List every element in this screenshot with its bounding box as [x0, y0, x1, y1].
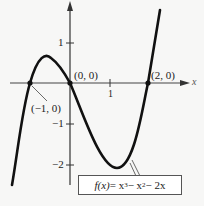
- x-axis-arrow-icon: [180, 80, 190, 86]
- point-neg1-0: [27, 80, 32, 85]
- y-tick-label-neg1: −1: [52, 118, 64, 129]
- x-tick-label-1: 1: [108, 89, 113, 99]
- point-label-two: (2, 0): [151, 70, 175, 81]
- function-curve: [12, 10, 160, 185]
- equation-end: − 2x: [146, 179, 166, 191]
- leader-line-neg1: [32, 86, 47, 101]
- point-label-origin: (0, 0): [74, 70, 98, 81]
- point-2-0: [145, 80, 150, 85]
- y-tick-label-1: 1: [58, 37, 64, 48]
- equation-f: f(x): [94, 179, 109, 191]
- x-axis-label: x: [192, 77, 196, 87]
- plot-area: 1 −1 −2 1 x (0, 0) (2, 0) (−1, 0) f(x) =…: [0, 0, 204, 206]
- equation-label-box: f(x) = x3 − x2 − 2x: [78, 175, 182, 195]
- y-axis-arrow-icon: [67, 1, 73, 11]
- equation-leader-line: [130, 160, 140, 176]
- y-tick-label-neg2: −2: [52, 159, 64, 170]
- point-0-0: [67, 80, 72, 85]
- equation-eq: = x: [110, 179, 124, 191]
- point-label-neg-one: (−1, 0): [31, 103, 61, 114]
- equation-mid: − x: [128, 179, 142, 191]
